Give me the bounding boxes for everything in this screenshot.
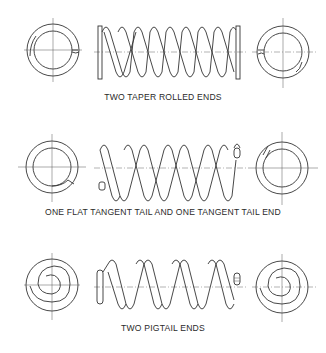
row-pigtail xyxy=(24,253,318,322)
spring-end-types-diagram xyxy=(0,0,326,353)
spring-side-view-pigtail xyxy=(94,260,246,309)
right-end-view-tangent-tail xyxy=(248,132,318,205)
left-end-view-taper-rolled xyxy=(24,18,82,82)
caption-taper-rolled: TWO TAPER ROLLED ENDS xyxy=(0,92,326,102)
left-end-view-pigtail xyxy=(24,253,80,320)
right-end-view-taper-rolled xyxy=(252,18,316,88)
left-end-view-flat-tangent-tail xyxy=(18,134,86,202)
row-tangent-tail xyxy=(18,132,318,205)
spring-side-view-taper-rolled xyxy=(94,26,246,79)
row-taper-rolled xyxy=(24,18,316,88)
caption-pigtail: TWO PIGTAIL ENDS xyxy=(0,323,326,333)
spring-side-view-tangent-tail xyxy=(94,144,246,201)
right-end-view-pigtail xyxy=(252,254,318,322)
caption-tangent-tail: ONE FLAT TANGENT TAIL AND ONE TANGENT TA… xyxy=(0,207,326,217)
